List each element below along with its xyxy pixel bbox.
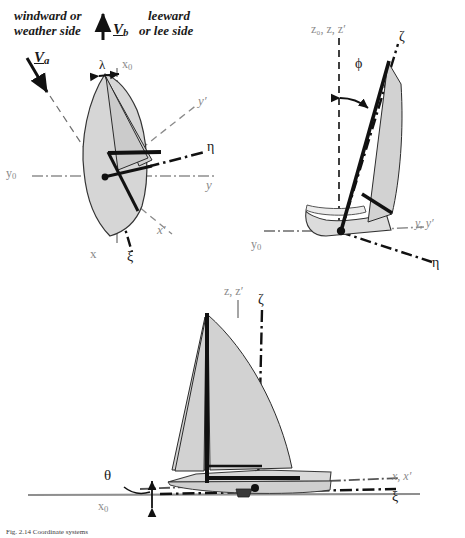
- trim-angle-label: θ: [104, 468, 111, 483]
- keel-side: [236, 489, 252, 497]
- figure-caption: Fig. 2.14 Coordinate systems: [6, 528, 88, 536]
- axis-label-y-stern: y, y′: [415, 217, 434, 229]
- axis-label-y0-stern-subscript: 0: [257, 242, 261, 252]
- apparent-wind-vector-subscript: a: [44, 54, 49, 66]
- windward-label-line2: weather side: [14, 24, 81, 37]
- axis-label-y-prime-plan: y′: [198, 94, 207, 107]
- boom-plan: [108, 152, 161, 153]
- leeward-label-line2: or lee side: [139, 24, 193, 37]
- axis-label-y0-plan: y0: [6, 167, 16, 181]
- boat-speed-vector-label: Vb: [113, 22, 128, 38]
- leeway-angle-arrow: [99, 74, 119, 76]
- axis-label-x-plan: x: [90, 247, 97, 260]
- axis-label-zeta-stern: ζ: [399, 30, 405, 44]
- axis-label-eta-plan: η: [207, 140, 214, 154]
- main-sail-stern: [368, 62, 402, 222]
- windward-label-line1: windward or: [14, 9, 82, 22]
- heel-angle-arc: [340, 98, 368, 108]
- stern-view: [264, 38, 432, 262]
- leeway-angle-label: λ: [99, 58, 105, 71]
- axis-label-y0-plan-subscript: 0: [12, 171, 16, 181]
- heel-angle-label: ϕ: [355, 57, 362, 71]
- axis-label-x0-side: x0: [98, 500, 108, 514]
- plan-view: [27, 14, 214, 252]
- hull-deck-stern: [306, 205, 366, 215]
- apparent-wind-vector-label: Va: [34, 50, 49, 66]
- axis-label-xi-plan: ξ: [127, 250, 133, 264]
- axis-label-eta-stern: η: [432, 256, 439, 270]
- main-sail-side: [208, 315, 292, 470]
- apparent-wind-vector-symbol: V: [34, 49, 44, 65]
- axis-label-y-plan: y: [206, 178, 212, 191]
- axis-label-x0-plan-subscript: 0: [128, 62, 132, 72]
- axis-label-y0-stern: y0: [251, 238, 261, 252]
- boat-speed-vector-symbol: V: [113, 21, 123, 37]
- axis-label-x-side: x, x′: [392, 470, 411, 482]
- axis-label-z-stern: z₀, z, z′: [311, 23, 346, 35]
- coordinate-systems-figure: [0, 0, 465, 538]
- origin-point-side: [251, 484, 259, 492]
- axis-eta-stern: [340, 232, 432, 262]
- axis-x0-side: [28, 494, 420, 495]
- axis-label-x0-plan: x0: [122, 58, 132, 72]
- axis-label-x-prime-plan: x′: [157, 223, 166, 236]
- side-view: [28, 300, 420, 508]
- axis-label-x0-side-subscript: 0: [104, 504, 108, 514]
- origin-point-stern: [337, 227, 345, 235]
- origin-point-plan: [102, 174, 109, 181]
- axis-label-z-side: z, z′: [224, 285, 243, 297]
- jib-sail-side-shape: [175, 316, 206, 471]
- axis-label-zeta-side: ζ: [258, 293, 264, 307]
- boat-speed-vector-subscript: b: [123, 26, 128, 38]
- leeward-label-line1: leeward: [148, 9, 190, 22]
- axis-label-xi-side: ξ: [392, 490, 398, 504]
